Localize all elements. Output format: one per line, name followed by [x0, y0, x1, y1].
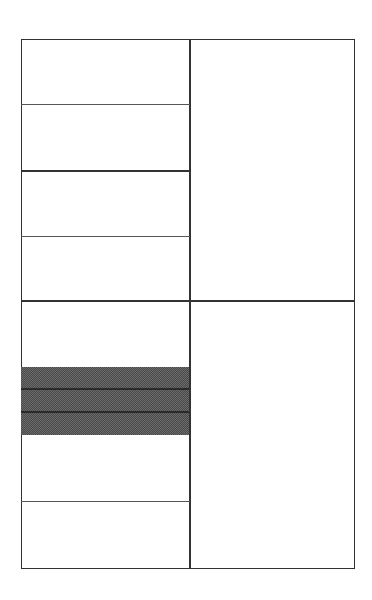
- shaded-block: [21, 367, 190, 435]
- top-left-row-line-3: [21, 236, 190, 237]
- column-divider: [189, 39, 191, 569]
- row-divider: [21, 300, 355, 302]
- shaded-band-divider-2: [21, 411, 190, 413]
- quadrant-bottom-right: [190, 301, 355, 569]
- shaded-band-divider-1: [21, 388, 190, 390]
- bottom-left-row-line-3: [21, 501, 190, 502]
- top-left-row-line-2: [21, 170, 190, 172]
- diagram-canvas: [0, 0, 372, 600]
- quadrant-top-right: [190, 39, 355, 301]
- quadrant-bottom-left: [21, 301, 190, 569]
- top-left-row-line-1: [21, 104, 190, 105]
